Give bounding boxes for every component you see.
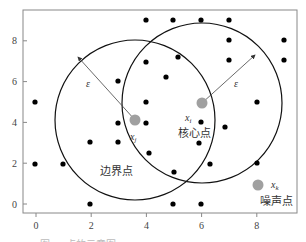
y-tick-label: 2 [12,158,17,169]
core-point-marker [197,98,208,109]
noise-point-symbol: xk [270,179,279,192]
epsilon-neighborhoods [55,23,282,200]
data-point [87,201,92,206]
data-point [115,78,120,83]
x-tick-label: 2 [89,220,94,231]
border-point-label: 边界点 [100,165,133,178]
data-point [143,99,148,104]
data-point [222,124,227,129]
data-point [281,57,286,62]
core-point-symbol: xi [184,112,191,125]
data-point [87,139,92,144]
data-point [226,37,231,42]
x-tick-label: 0 [34,220,39,231]
x-tick-label: 4 [144,220,149,231]
x-tick-label: 8 [254,220,259,231]
data-point [207,161,212,166]
y-tick-label: 6 [12,76,17,87]
data-point [170,17,175,22]
data-point [254,160,259,165]
data-point [143,59,148,64]
data-point [146,150,151,155]
dbscan-diagram: 02468 02468 εεxjxixk边界点核心点噪声点 [0,0,306,242]
data-point [226,17,231,22]
epsilon-label-left: ε [86,78,90,89]
data-point [254,99,259,104]
x-tick-label: 6 [199,220,204,231]
data-point [115,139,120,144]
y-tick-label: 8 [12,35,17,46]
data-point [115,120,120,125]
data-point [32,99,37,104]
data-point [163,74,168,79]
x-axis-ticks: 02468 [34,213,260,231]
y-axis-ticks: 02468 [12,35,27,209]
border-point-marker [130,115,141,126]
data-point [198,119,203,124]
data-point [175,54,180,59]
epsilon-radius-arrows [78,55,255,120]
noise-point-marker [253,180,264,191]
noise-point-label: 噪声点 [260,194,293,208]
figure-caption: 图 … 点的示意图 [40,236,306,242]
data-point [170,201,175,206]
data-point [198,17,203,22]
data-points [32,17,286,206]
data-point [198,201,203,206]
y-tick-label: 4 [12,117,17,128]
highlighted-points [130,98,264,191]
data-point [281,37,286,42]
epsilon-label-right: ε [234,78,238,89]
core-point-label: 核心点 [178,126,211,140]
data-point [196,140,201,145]
data-point [143,120,148,125]
data-point [143,17,148,22]
data-point [60,161,65,166]
data-point [32,161,37,166]
y-tick-label: 0 [12,199,17,210]
data-point [226,57,231,62]
data-point [171,169,176,174]
